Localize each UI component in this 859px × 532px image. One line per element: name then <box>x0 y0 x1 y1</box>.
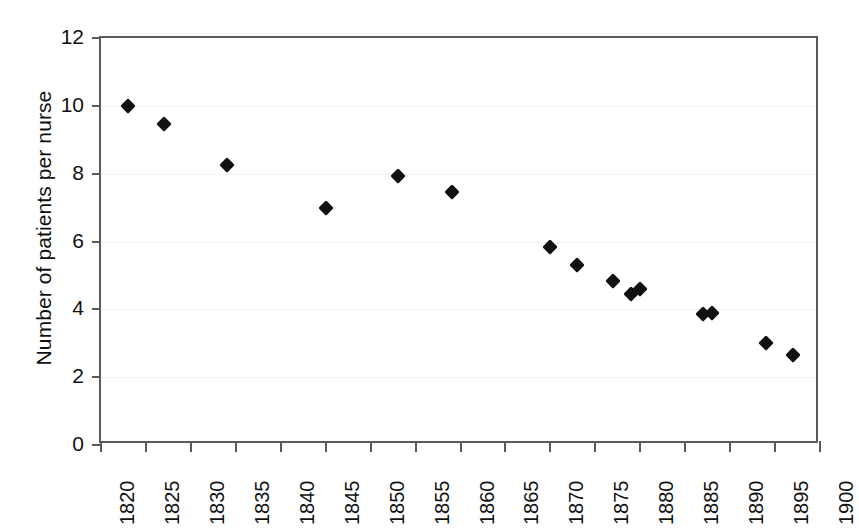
plot-area <box>99 36 818 443</box>
x-tick-mark <box>504 441 506 452</box>
x-tick-mark <box>549 441 551 452</box>
data-point <box>704 305 720 321</box>
y-gridline <box>101 242 816 243</box>
data-point <box>219 157 235 173</box>
x-tick-label: 1865 <box>521 455 541 525</box>
x-tick-mark <box>774 441 776 452</box>
y-tick-mark <box>92 241 101 243</box>
data-point <box>606 273 622 289</box>
x-tick-mark <box>100 441 102 452</box>
x-tick-mark <box>594 441 596 452</box>
y-tick-label: 6 <box>38 229 84 250</box>
y-tick-mark <box>92 37 101 39</box>
x-tick-mark <box>325 441 327 452</box>
y-tick-label: 8 <box>38 161 84 182</box>
y-tick-mark <box>92 376 101 378</box>
data-point <box>390 168 406 184</box>
x-tick-label: 1850 <box>387 455 407 525</box>
x-tick-mark <box>280 441 282 452</box>
y-gridline <box>101 377 816 378</box>
x-tick-mark <box>415 441 417 452</box>
data-point <box>444 185 460 201</box>
y-tick-mark <box>92 308 101 310</box>
x-tick-mark <box>235 441 237 452</box>
y-tick-label: 2 <box>38 365 84 386</box>
x-tick-label: 1825 <box>162 455 182 525</box>
y-tick-label: 4 <box>38 297 84 318</box>
x-tick-mark <box>370 441 372 452</box>
x-tick-label: 1890 <box>746 455 766 525</box>
x-tick-mark <box>145 441 147 452</box>
y-gridline <box>101 106 816 107</box>
y-tick-mark <box>92 173 101 175</box>
x-tick-label: 1855 <box>432 455 452 525</box>
y-tick-mark <box>92 105 101 107</box>
data-point <box>570 257 586 273</box>
x-tick-label: 1875 <box>611 455 631 525</box>
y-tick-label: 0 <box>38 433 84 454</box>
x-tick-label: 1900 <box>836 455 856 525</box>
x-tick-label: 1840 <box>297 455 317 525</box>
x-tick-label: 1820 <box>117 455 137 525</box>
x-tick-mark <box>684 441 686 452</box>
x-tick-mark <box>190 441 192 452</box>
x-tick-label: 1860 <box>477 455 497 525</box>
x-tick-label: 1895 <box>791 455 811 525</box>
data-point <box>785 347 801 363</box>
x-tick-label: 1835 <box>252 455 272 525</box>
y-tick-label: 10 <box>38 93 84 114</box>
x-tick-mark <box>460 441 462 452</box>
y-axis-tick-labels: 024681012 <box>38 0 84 532</box>
data-point <box>318 200 334 216</box>
data-point <box>758 335 774 351</box>
data-point <box>156 117 172 133</box>
x-axis-tick-labels: 1820182518301835184018451850185518601865… <box>99 455 818 525</box>
x-tick-label: 1885 <box>701 455 721 525</box>
x-tick-mark <box>729 441 731 452</box>
x-tick-mark <box>639 441 641 452</box>
y-tick-label: 12 <box>38 26 84 47</box>
x-tick-label: 1880 <box>656 455 676 525</box>
data-point <box>120 98 136 114</box>
y-gridline <box>101 174 816 175</box>
scatter-chart-figure: Number of patients per nurse 024681012 1… <box>0 0 859 532</box>
x-tick-label: 1830 <box>207 455 227 525</box>
x-tick-label: 1870 <box>566 455 586 525</box>
x-tick-label: 1845 <box>342 455 362 525</box>
x-tick-mark <box>819 441 821 452</box>
